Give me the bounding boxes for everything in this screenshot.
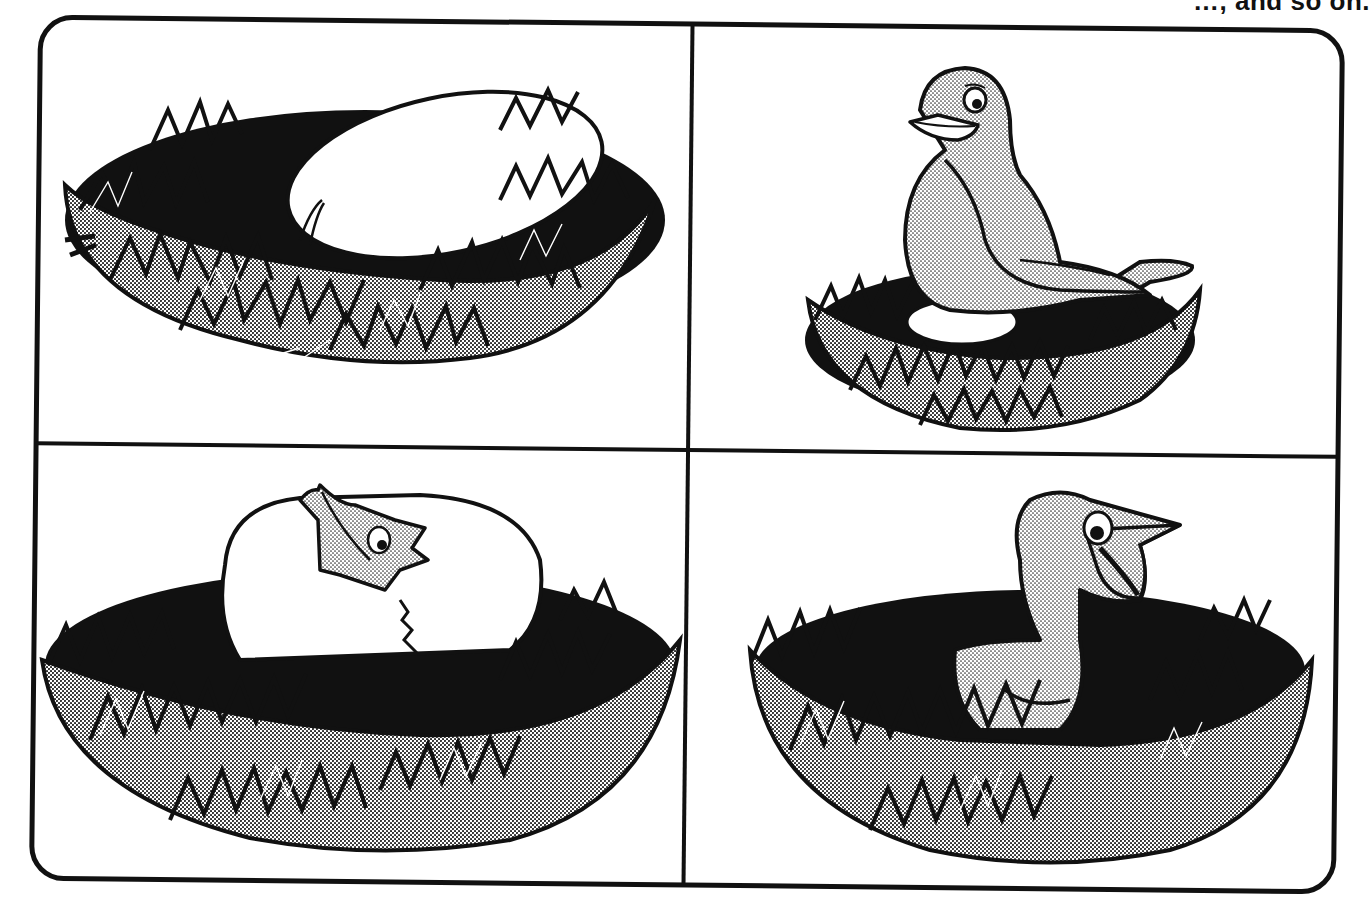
worksheet-illustration (0, 0, 1370, 913)
panel-1-egg-in-nest (65, 65, 665, 362)
mother-bird-icon (905, 68, 1150, 312)
panel-3-chick-hatching (42, 485, 680, 851)
vertical-divider (683, 24, 692, 885)
panel-4-chick-in-nest (750, 493, 1312, 863)
panel-2-bird-on-nest (805, 68, 1200, 430)
